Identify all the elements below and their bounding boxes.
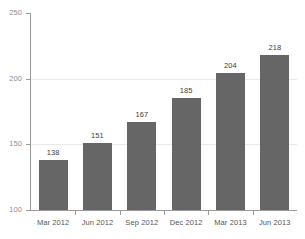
y-tick-mark [26, 210, 31, 211]
bar-value-label: 218 [255, 44, 295, 52]
y-tick-label: 250 [0, 9, 22, 17]
bar[interactable] [39, 160, 68, 210]
y-tick-label: 200 [0, 75, 22, 83]
y-tick-mark [26, 79, 31, 80]
gridline [31, 79, 297, 80]
y-tick-mark [26, 13, 31, 14]
x-tick-mark [253, 211, 254, 215]
bar-value-label: 185 [166, 87, 206, 95]
y-tick-mark [26, 144, 31, 145]
x-tick-mark [120, 211, 121, 215]
bar-value-label: 167 [122, 111, 162, 119]
x-tick-mark [164, 211, 165, 215]
bar[interactable] [83, 143, 112, 210]
bar-value-label: 151 [78, 132, 118, 140]
x-tick-label: Jun 2013 [247, 219, 303, 227]
bar[interactable] [260, 55, 289, 210]
bar[interactable] [127, 122, 156, 210]
x-tick-mark [208, 211, 209, 215]
y-tick-label: 100 [0, 206, 22, 214]
bar-value-label: 204 [211, 62, 251, 70]
bar[interactable] [216, 73, 245, 210]
bar-value-label: 138 [33, 149, 73, 157]
plot-area [31, 13, 297, 210]
bar[interactable] [172, 98, 201, 210]
gridline [31, 144, 297, 145]
y-axis-line [30, 13, 31, 211]
y-tick-label: 150 [0, 140, 22, 148]
bar-chart: 100150200250 Mar 2012Jun 2012Sep 2012Dec… [0, 0, 305, 239]
x-tick-mark [75, 211, 76, 215]
